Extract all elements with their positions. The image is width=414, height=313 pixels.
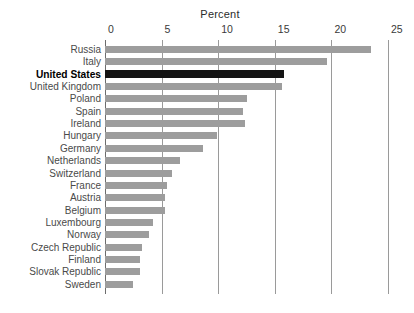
bar-france (105, 182, 167, 189)
bar-finland (105, 256, 140, 263)
category-label-norway: Norway (67, 230, 101, 240)
bar-luxembourg (105, 219, 153, 226)
category-label-hungary: Hungary (63, 131, 101, 141)
bar-row: United States (105, 70, 388, 80)
bar-sweden (105, 281, 133, 288)
gridline-25 (388, 40, 389, 294)
bar-row: United Kingdom (105, 82, 388, 92)
category-label-belgium: Belgium (65, 206, 101, 216)
bar-row: Netherlands (105, 156, 388, 166)
category-label-austria: Austria (70, 193, 101, 203)
bar-row: Luxembourg (105, 218, 388, 228)
bar-austria (105, 194, 165, 201)
bar-row: Czech Republic (105, 243, 388, 253)
x-tick-label-20: 20 (331, 23, 346, 35)
bar-poland (105, 95, 247, 102)
category-label-sweden: Sweden (65, 280, 101, 290)
bar-ireland (105, 120, 245, 127)
chart-title: Percent (0, 8, 414, 20)
category-label-spain: Spain (75, 107, 101, 117)
chart-figure: Percent 0510152025RussiaItalyUnited Stat… (0, 0, 414, 313)
bar-row: France (105, 181, 388, 191)
category-label-russia: Russia (70, 45, 101, 55)
bar-germany (105, 145, 203, 152)
bar-italy (105, 58, 327, 65)
bar-spain (105, 108, 243, 115)
category-label-slovak-republic: Slovak Republic (29, 267, 101, 277)
plot-area: 0510152025RussiaItalyUnited StatesUnited… (105, 40, 388, 294)
category-label-czech-republic: Czech Republic (31, 243, 101, 253)
bar-row: Ireland (105, 119, 388, 129)
x-tick-label-15: 15 (275, 23, 290, 35)
bar-united-states (105, 70, 284, 78)
bar-row: Poland (105, 94, 388, 104)
bar-hungary (105, 132, 217, 139)
bar-row: Switzerland (105, 169, 388, 179)
bar-row: Belgium (105, 206, 388, 216)
x-tick-label-0: 0 (105, 23, 114, 35)
x-tick-label-5: 5 (162, 23, 171, 35)
bar-belgium (105, 207, 165, 214)
x-tick-label-25: 25 (388, 23, 403, 35)
bar-row: Norway (105, 230, 388, 240)
category-label-switzerland: Switzerland (49, 169, 101, 179)
category-label-netherlands: Netherlands (47, 156, 101, 166)
category-label-united-states: United States (36, 70, 101, 80)
category-label-france: France (70, 181, 101, 191)
bar-row: Sweden (105, 280, 388, 290)
bar-row: Germany (105, 144, 388, 154)
category-label-finland: Finland (68, 255, 101, 265)
bar-row: Finland (105, 255, 388, 265)
category-label-germany: Germany (60, 144, 101, 154)
category-label-ireland: Ireland (70, 119, 101, 129)
bar-czech-republic (105, 244, 142, 251)
bar-slovak-republic (105, 268, 140, 275)
bar-row: Slovak Republic (105, 267, 388, 277)
bar-netherlands (105, 157, 180, 164)
category-label-luxembourg: Luxembourg (45, 218, 101, 228)
x-tick-label-10: 10 (218, 23, 233, 35)
bar-switzerland (105, 170, 172, 177)
category-label-poland: Poland (70, 94, 101, 104)
category-label-italy: Italy (83, 57, 101, 67)
bar-row: Russia (105, 45, 388, 55)
bar-row: Hungary (105, 131, 388, 141)
bar-russia (105, 46, 371, 53)
bar-row: Spain (105, 107, 388, 117)
bar-united-kingdom (105, 83, 282, 90)
bar-row: Italy (105, 57, 388, 67)
bar-row: Austria (105, 193, 388, 203)
category-label-united-kingdom: United Kingdom (30, 82, 101, 92)
bar-norway (105, 231, 149, 238)
